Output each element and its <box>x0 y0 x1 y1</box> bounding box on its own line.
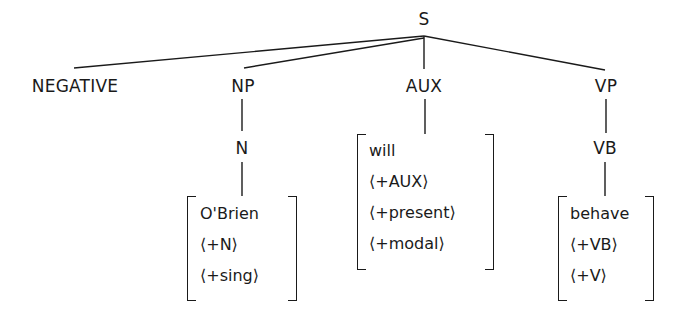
bracket-left-aux <box>357 134 366 270</box>
node-vp: VP <box>595 76 617 96</box>
bracket-left-vb <box>558 196 567 301</box>
edge-s-np <box>244 38 424 68</box>
feature-lexeme: will <box>369 135 456 166</box>
bracket-right-vb <box>645 196 654 301</box>
node-vb: VB <box>593 138 617 158</box>
feature: ⟨+AUX⟩ <box>369 166 456 197</box>
feature-matrix-n: O'Brien ⟨+N⟩ ⟨+sing⟩ <box>200 198 259 291</box>
feature-lexeme: behave <box>570 198 629 229</box>
node-s: S <box>419 9 430 29</box>
feature: ⟨+sing⟩ <box>200 260 259 291</box>
feature-matrix-vb: behave ⟨+VB⟩ ⟨+V⟩ <box>570 198 629 291</box>
feature-matrix-aux: will ⟨+AUX⟩ ⟨+present⟩ ⟨+modal⟩ <box>369 135 456 259</box>
edge-s-negative <box>74 36 424 68</box>
edge-s-vp <box>424 36 605 70</box>
feature: ⟨+V⟩ <box>570 260 629 291</box>
bracket-left-n <box>187 196 196 301</box>
feature: ⟨+N⟩ <box>200 229 259 260</box>
feature: ⟨+modal⟩ <box>369 228 456 259</box>
node-negative: NEGATIVE <box>32 76 118 96</box>
node-aux: AUX <box>406 76 442 96</box>
node-n: N <box>236 138 249 158</box>
node-np: NP <box>231 76 254 96</box>
feature-lexeme: O'Brien <box>200 198 259 229</box>
bracket-right-aux <box>485 134 494 270</box>
feature: ⟨+present⟩ <box>369 197 456 228</box>
feature: ⟨+VB⟩ <box>570 229 629 260</box>
bracket-right-n <box>288 196 297 301</box>
